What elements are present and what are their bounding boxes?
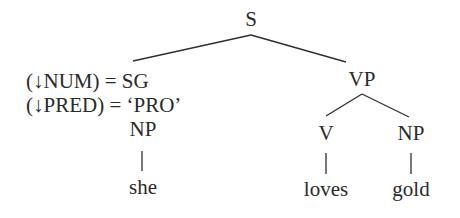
edge-s-to-vp xyxy=(251,35,346,62)
node-object-np: NP xyxy=(398,122,425,144)
edge-vp-to-v xyxy=(326,94,362,116)
annotation-num: (↓NUM) = SG xyxy=(26,70,149,92)
annotation-pred: (↓PRED) = ‘PRO’ xyxy=(26,94,181,116)
node-vp: VP xyxy=(349,68,376,90)
leaf-gold: gold xyxy=(392,178,429,200)
node-s: S xyxy=(245,8,257,30)
edge-vp-to-np xyxy=(362,94,409,117)
leaf-she: she xyxy=(129,176,157,198)
node-v: V xyxy=(318,122,333,144)
edge-s-to-np xyxy=(133,35,251,61)
leaf-loves: loves xyxy=(304,178,348,200)
node-subject-np: NP xyxy=(130,118,157,140)
